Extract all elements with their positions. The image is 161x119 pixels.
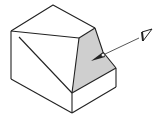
isometric-solid-drawing [0, 0, 161, 119]
bottom-right-edge [72, 87, 116, 113]
top-inner-edge [11, 31, 79, 38]
eye-icon [142, 29, 152, 41]
diagram-canvas [0, 0, 161, 119]
diagonal-edge [19, 37, 72, 93]
top-face-edge [11, 5, 95, 31]
